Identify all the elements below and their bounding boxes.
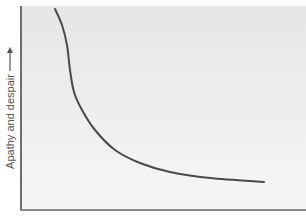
data-curve bbox=[55, 9, 264, 182]
curve-plot bbox=[0, 0, 306, 217]
